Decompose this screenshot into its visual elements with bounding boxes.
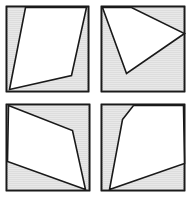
panel-bottom-right [96,99,191,198]
panel-bottom-left [0,99,95,198]
panel-top-left [0,0,95,99]
panel-top-right [96,0,191,99]
figure-canvas [0,0,191,198]
